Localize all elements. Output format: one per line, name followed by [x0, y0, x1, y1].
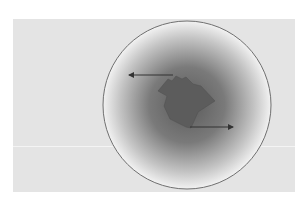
diagram-stage: [0, 0, 306, 202]
sphere-diagram: [0, 0, 306, 202]
